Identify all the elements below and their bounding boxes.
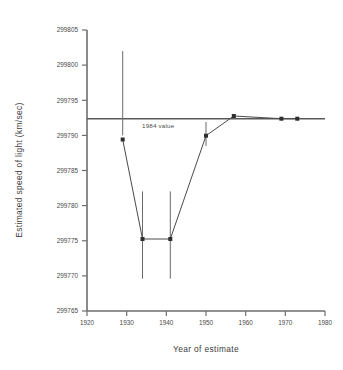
x-tick-label-5: 1970 xyxy=(278,319,293,326)
y-tick-label-5: 299790 xyxy=(57,132,79,139)
error-bars xyxy=(123,51,206,279)
chart-svg: 299765 299770 299775 299780 299785 29979… xyxy=(0,0,343,370)
x-axis: 1920 1930 1940 1950 1960 1970 1980 Year … xyxy=(80,311,333,354)
x-tick-label-2: 1940 xyxy=(159,319,174,326)
x-axis-title: Year of estimate xyxy=(173,344,239,354)
y-tick-label-2: 299775 xyxy=(57,237,79,244)
y-tick-label-0: 299765 xyxy=(57,307,79,314)
data-point-1950 xyxy=(204,134,208,138)
data-point-1969 xyxy=(279,117,283,121)
data-point-1957 xyxy=(232,114,236,118)
x-tick-label-3: 1950 xyxy=(199,319,214,326)
speed-of-light-chart: 299765 299770 299775 299780 299785 29979… xyxy=(0,0,343,370)
reference-line-label: 1984 value xyxy=(142,122,175,129)
data-point-1929 xyxy=(121,138,125,142)
data-point-1934 xyxy=(141,237,145,241)
x-tick-label-4: 1960 xyxy=(239,319,254,326)
y-tick-label-7: 299800 xyxy=(57,61,79,68)
x-axis-tick-labels: 1920 1930 1940 1950 1960 1970 1980 xyxy=(80,319,333,326)
y-tick-label-1: 299770 xyxy=(57,272,79,279)
data-series-line xyxy=(123,116,298,239)
y-axis-title: Estimated speed of light (km/sec) xyxy=(14,102,24,237)
y-tick-label-4: 299785 xyxy=(57,167,79,174)
y-tick-label-8: 299805 xyxy=(57,26,79,33)
y-tick-label-6: 299795 xyxy=(57,97,79,104)
y-axis: 299765 299770 299775 299780 299785 29979… xyxy=(14,26,87,314)
y-tick-label-3: 299780 xyxy=(57,202,79,209)
x-tick-label-0: 1920 xyxy=(80,319,95,326)
x-tick-label-1: 1930 xyxy=(120,319,135,326)
y-axis-tick-labels: 299765 299770 299775 299780 299785 29979… xyxy=(57,26,79,314)
x-tick-label-6: 1980 xyxy=(318,319,333,326)
data-point-1941 xyxy=(168,237,172,241)
data-point-1973 xyxy=(295,117,299,121)
